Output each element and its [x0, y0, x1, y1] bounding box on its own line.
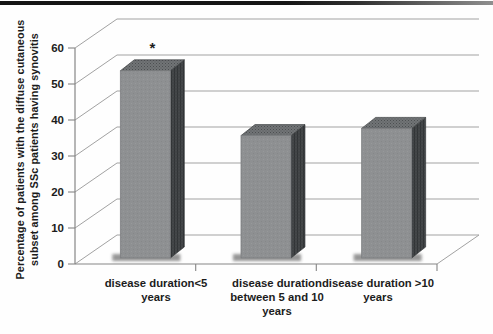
y-axis-title-line-1: Percentage of patients with the diffuse …	[14, 14, 28, 286]
category-label-line: years	[303, 290, 453, 304]
bar-2	[233, 125, 305, 261]
y-tick-label-50: 50	[51, 78, 64, 90]
y-axis-title-line-2: subset among SSc patients having synovit…	[27, 14, 41, 286]
significance-asterisk: *	[149, 39, 155, 56]
category-label-3: disease duration >10years	[303, 276, 453, 304]
y-tick-label-60: 60	[51, 42, 64, 54]
bar-front-face	[241, 136, 291, 258]
floor-right-edge	[437, 235, 479, 264]
y-tick-label-10: 10	[51, 222, 64, 234]
bar-1	[112, 60, 184, 261]
category-label-line: disease duration >10	[303, 276, 453, 290]
figure-container: 0102030405060* Percentage of patients wi…	[0, 0, 493, 334]
y-tick-label-40: 40	[51, 114, 64, 126]
bar-side-face	[170, 60, 184, 258]
bar-front-face	[120, 71, 170, 258]
bar-side-face	[291, 125, 305, 258]
y-tick-label-30: 30	[51, 150, 64, 162]
gridline-60	[75, 19, 479, 48]
bar-3	[354, 117, 426, 261]
category-label-line: years	[202, 304, 352, 318]
y-tick-label-0: 0	[58, 258, 64, 270]
y-tick-label-20: 20	[51, 186, 64, 198]
bar-front-face	[362, 128, 412, 258]
bar-side-face	[412, 117, 426, 258]
y-axis-title: Percentage of patients with the diffuse …	[14, 14, 41, 286]
